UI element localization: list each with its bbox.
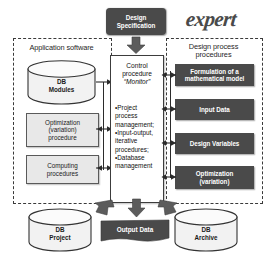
control-bullet-line-6: procedures;	[115, 146, 161, 154]
control-procedure-line3: “Monitor”	[124, 78, 150, 85]
control-procedure-line1: Control	[126, 62, 147, 69]
design-process-title-line2: procedures	[196, 51, 232, 59]
db-archive-line1: DB	[201, 226, 210, 233]
db-project-label: DB Project	[27, 226, 93, 241]
control-procedure-line2: procedure	[122, 70, 152, 77]
db-project-cylinder[interactable]: DB Project	[27, 208, 93, 252]
optimization-variation-line2: (variation)	[200, 178, 230, 185]
optimization-procedure-line3: procedure	[48, 134, 76, 141]
computing-procedures-line2: procedures	[47, 170, 79, 177]
output-data-banner[interactable]: Output Data	[100, 219, 170, 243]
optimization-variation-line1: Optimization	[196, 170, 234, 177]
design-specification-line1: Design	[126, 14, 147, 21]
computing-procedures-line1: Computing	[47, 162, 77, 169]
connector-control-to-design-variables	[161, 139, 177, 147]
control-bullet-line-1: •Project	[115, 104, 161, 112]
design-process-procedures-title: Design process procedures	[166, 41, 261, 61]
arrow-control-to-db-project	[95, 198, 115, 218]
optimization-procedure-line1: Optimization	[45, 119, 80, 126]
control-procedure-monitor-box[interactable]: Control procedure “Monitor” •Project pro…	[110, 55, 164, 203]
computing-procedures-box[interactable]: Computing procedures	[26, 155, 99, 184]
design-variables-line1: Design Variables	[190, 140, 240, 147]
control-procedure-bullets: •Project process management; •Input-outp…	[115, 104, 161, 171]
formulation-line1: Formulation of a	[190, 68, 239, 75]
design-specification-node[interactable]: Design Specification	[106, 8, 166, 35]
application-software-title: Application software	[13, 43, 110, 54]
control-procedure-title: Control procedure “Monitor”	[111, 62, 163, 87]
design-specification-line2: Specification	[117, 22, 156, 29]
control-bullet-line-8: management	[115, 162, 161, 170]
db-modules-cylinder[interactable]: DB Modules	[26, 60, 97, 104]
input-data-line1: Input Data	[199, 106, 229, 113]
control-bullet-line-2: process	[115, 112, 161, 120]
db-archive-label: DB Archive	[173, 226, 239, 241]
control-bullet-line-5: iterative	[115, 137, 161, 145]
formulation-of-mathematical-model-box[interactable]: Formulation of a mathematical model	[175, 64, 254, 86]
connector-control-to-formulation	[161, 71, 177, 79]
optimization-procedure-box[interactable]: Optimization (variation) procedure	[26, 113, 99, 147]
control-bullet-line-7: •Database	[115, 154, 161, 162]
db-modules-label: DB Modules	[26, 78, 97, 93]
control-bullet-line-4: •Input-output,	[115, 129, 161, 137]
db-modules-line2: Modules	[49, 86, 75, 93]
db-archive-line2: Archive	[194, 234, 217, 241]
arrow-control-to-output-data	[127, 199, 146, 218]
diagram-canvas: Design Specification expert Application …	[0, 0, 274, 264]
db-modules-line1: DB	[57, 78, 66, 85]
formulation-line2: mathematical model	[185, 75, 245, 82]
connector-control-to-input-data	[161, 105, 177, 113]
output-data-label: Output Data	[100, 222, 170, 238]
connector-control-to-optimization-variation	[161, 173, 177, 181]
db-project-line2: Project	[49, 234, 70, 241]
control-bullet-line-3: management;	[115, 121, 161, 129]
optimization-procedure-line2: (variation)	[49, 126, 77, 133]
right-connector-bus	[170, 71, 171, 178]
db-project-line1: DB	[55, 226, 64, 233]
design-variables-box[interactable]: Design Variables	[175, 133, 254, 154]
expert-logo: expert	[185, 6, 268, 32]
arrow-spec-to-control	[126, 37, 146, 54]
db-archive-cylinder[interactable]: DB Archive	[173, 208, 239, 252]
input-data-box[interactable]: Input Data	[175, 99, 254, 120]
optimization-variation-box[interactable]: Optimization (variation)	[175, 166, 254, 189]
